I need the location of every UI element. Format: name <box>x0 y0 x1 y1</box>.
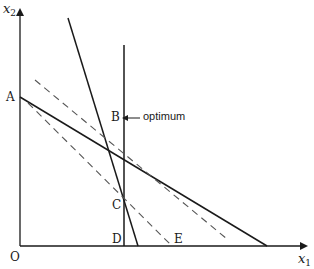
point-b-label: B <box>111 111 120 123</box>
point-e-label: E <box>174 233 183 245</box>
x-axis-sub: 1 <box>305 258 311 268</box>
diagram-graphics <box>0 0 314 269</box>
x-axis-label: x1 <box>298 252 311 268</box>
point-d-label: D <box>112 233 122 245</box>
objective-line-upper <box>35 80 227 239</box>
y-axis-sub: 2 <box>10 8 16 18</box>
y-axis-label: x2 <box>3 2 16 18</box>
point-a-label: A <box>6 91 15 103</box>
optimum-label: optimum <box>143 111 185 122</box>
optimum-arrowhead-icon <box>122 115 128 121</box>
point-c-label: C <box>112 199 121 211</box>
origin-label: O <box>10 251 20 263</box>
lp-diagram: x2 x1 O A B C D E optimum <box>0 0 314 269</box>
